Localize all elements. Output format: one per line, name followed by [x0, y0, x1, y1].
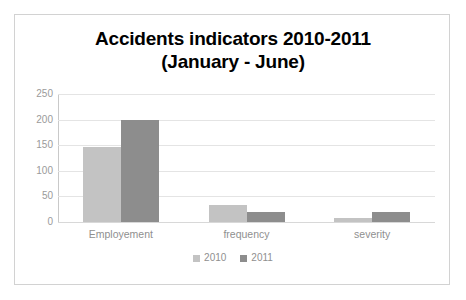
x-axis-category-labels: Employementfrequencyseverity — [58, 227, 435, 243]
bar-2011-employement — [121, 120, 159, 222]
bar-2010-employement — [83, 147, 121, 222]
bar-group — [83, 94, 159, 222]
bar-group — [209, 94, 285, 222]
legend-swatch-2010 — [193, 255, 200, 262]
bar-2011-severity — [372, 212, 410, 222]
y-axis-tick-label: 100 — [23, 166, 53, 176]
legend-swatch-2011 — [240, 255, 247, 262]
chart-legend: 20102011 — [15, 253, 451, 263]
chart-title: Accidents indicators 2010-2011 (January … — [15, 27, 451, 73]
y-axis-tick-labels: 050100150200250 — [21, 94, 53, 222]
bar-2010-frequency — [209, 205, 247, 222]
y-axis-tick-label: 150 — [23, 140, 53, 150]
y-axis-tick-label: 0 — [23, 217, 53, 227]
y-axis-tick-label: 200 — [23, 115, 53, 125]
plot-area — [58, 94, 435, 222]
bar-2011-frequency — [247, 212, 285, 222]
gridline — [58, 222, 435, 223]
bar-2010-severity — [334, 218, 372, 222]
y-axis-tick-label: 250 — [23, 89, 53, 99]
y-axis-tick-label: 50 — [23, 191, 53, 201]
x-axis-label-frequency: frequency — [184, 227, 310, 241]
chart-frame: Accidents indicators 2010-2011 (January … — [14, 14, 450, 285]
legend-item-2010[interactable]: 2010 — [193, 253, 226, 263]
legend-label-2010: 2010 — [204, 253, 226, 263]
chart-title-line-1: Accidents indicators 2010-2011 — [95, 28, 371, 49]
chart-title-line-2: (January - June) — [15, 50, 451, 73]
legend-item-2011[interactable]: 2011 — [240, 253, 273, 263]
bar-group — [334, 94, 410, 222]
legend-label-2011: 2011 — [251, 253, 273, 263]
x-axis-label-severity: severity — [309, 227, 435, 241]
x-axis-label-employement: Employement — [58, 227, 184, 241]
